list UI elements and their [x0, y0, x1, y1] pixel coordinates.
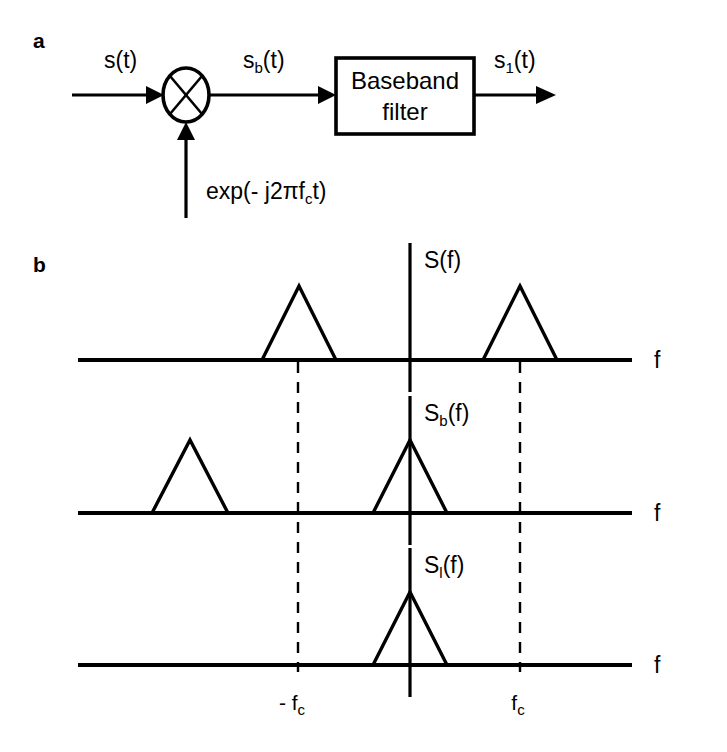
- sl-f-axis-name: f: [654, 652, 661, 678]
- oscillator-label: exp(- j2πfct): [206, 178, 327, 207]
- s-f-triangle-negative: [262, 286, 336, 360]
- sb-f-triangle-image: [152, 440, 228, 513]
- output-signal-label-sub: 1: [506, 59, 514, 76]
- oscillator-label-tail: t): [312, 178, 326, 204]
- output-signal-label-main: s: [494, 47, 506, 73]
- mixer-output-arrowhead: [318, 86, 336, 104]
- panel-a: a s(t) exp(- j2πfct) sb(t) Baseband f: [33, 29, 556, 218]
- tick-label-negative-fc: - fc: [279, 691, 306, 718]
- sl-f-label-main: S: [424, 552, 439, 578]
- tick-positive-sub: c: [517, 701, 525, 718]
- baseband-filter-label-line1: Baseband: [351, 67, 459, 94]
- output-arrowhead: [536, 86, 556, 104]
- baseband-filter-label-line2: filter: [382, 98, 427, 125]
- sl-f-label-tail: (f): [443, 552, 465, 578]
- mixer-output-label-tail: (t): [263, 47, 285, 73]
- sb-f-label-main: S: [424, 400, 439, 426]
- plot-s-f: S(f) f: [78, 243, 661, 392]
- mixer-output-label-sub: b: [255, 59, 263, 76]
- s-f-label: S(f): [424, 247, 461, 273]
- plot-sb-f: Sb(f) f: [78, 396, 661, 545]
- output-signal-label: s1(t): [494, 47, 536, 76]
- oscillator-arrowhead: [177, 122, 195, 140]
- mixer-output-label: sb(t): [243, 47, 285, 76]
- tick-negative-prefix: -: [279, 691, 292, 714]
- output-signal-label-tail: (t): [514, 47, 536, 73]
- tick-label-positive-fc: fc: [511, 691, 525, 718]
- oscillator-label-pi: π: [283, 178, 299, 204]
- tick-negative-sub: c: [298, 701, 306, 718]
- panel-a-letter: a: [33, 29, 45, 52]
- figure-root: a s(t) exp(- j2πfct) sb(t) Baseband f: [0, 0, 727, 752]
- mixer-icon: [163, 68, 209, 122]
- panel-b-letter: b: [33, 253, 46, 276]
- sl-f-label: Sl(f): [424, 552, 464, 581]
- s-f-label-main: S: [424, 247, 439, 273]
- input-signal-label: s(t): [104, 47, 137, 73]
- sb-f-axis-name: f: [654, 500, 661, 526]
- sb-f-label: Sb(f): [424, 400, 469, 429]
- s-f-triangle-positive: [483, 286, 557, 360]
- plot-sl-f: Sl(f) f: [78, 548, 661, 697]
- sb-f-label-tail: (f): [448, 400, 470, 426]
- oscillator-label-prefix: exp(- j2: [206, 178, 283, 204]
- s-f-axis-name: f: [654, 347, 661, 373]
- sb-f-label-sub: b: [439, 412, 447, 429]
- s-f-label-tail: (f): [439, 247, 461, 273]
- mixer-output-label-main: s: [243, 47, 255, 73]
- panel-b: b S(f) f Sb(f) f: [33, 243, 661, 718]
- figure-canvas: a s(t) exp(- j2πfct) sb(t) Baseband f: [0, 0, 727, 752]
